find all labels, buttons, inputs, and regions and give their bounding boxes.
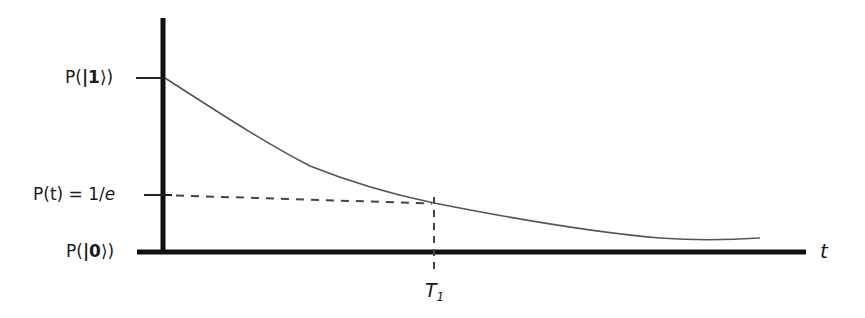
decay-curve [165, 78, 760, 240]
diagram-canvas [0, 0, 865, 318]
label-p-t-equals-1-over-e: P(t) = 1/e [33, 186, 115, 203]
label-p-one: P(|1⟩) [65, 69, 113, 86]
label-t1: T1 [425, 281, 444, 303]
label-t1-main: T [425, 279, 437, 301]
t1-decay-diagram: P(|1⟩) P(t) = 1/e P(|0⟩) t T1 [0, 0, 865, 318]
label-pe-e: e [105, 184, 115, 204]
label-t1-subscript: 1 [437, 290, 445, 304]
label-p0-suffix: ⟩) [101, 241, 114, 261]
label-p1-prefix: P( [65, 67, 82, 87]
x-axis-label-t: t [820, 241, 828, 261]
label-p0-prefix: P( [66, 241, 83, 261]
dashed-line-1-over-e [176, 196, 432, 204]
label-p1-state: 1 [88, 67, 100, 87]
label-p1-suffix: ⟩) [100, 67, 113, 87]
label-pe-text: P(t) = 1/ [33, 184, 105, 204]
label-p0-state: 0 [89, 241, 101, 261]
label-p-zero: P(|0⟩) [66, 243, 114, 260]
